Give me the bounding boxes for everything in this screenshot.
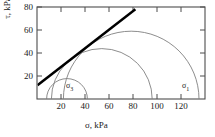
y-axis-label: τ, kPa [2, 0, 12, 38]
y-tick-label-20: 20 [7, 71, 33, 81]
sigma1-subscript: 1 [186, 86, 189, 92]
x-axis-ticks-top [61, 7, 181, 12]
mohr-circle-3 [63, 31, 199, 137]
x-tick-label-80: 80 [122, 101, 144, 111]
y-tick-label-40: 40 [7, 48, 33, 58]
x-axis-ticks [61, 94, 181, 99]
sigma1-annotation: σ1 [182, 81, 189, 92]
x-tick-label-60: 60 [98, 101, 120, 111]
mohr-circle-figure: 80 60 40 20 20 40 60 80 100 120 τ, kPa σ… [0, 0, 215, 137]
x-tick-label-40: 40 [74, 101, 96, 111]
sigma3-annotation: σ3 [66, 81, 73, 92]
x-tick-label-100: 100 [146, 101, 168, 111]
x-tick-label-120: 120 [170, 101, 192, 111]
y-axis-ticks-right [200, 7, 205, 76]
sigma3-subscript: 3 [70, 86, 73, 92]
y-axis-ticks [37, 7, 42, 76]
x-tick-label-20: 20 [50, 101, 72, 111]
failure-envelope-line [38, 9, 136, 85]
plot-canvas [0, 0, 215, 137]
x-axis-label: σ, kPa [85, 120, 108, 130]
